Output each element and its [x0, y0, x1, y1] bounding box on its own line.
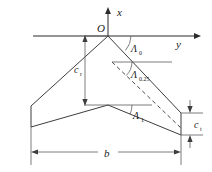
origin-label: O: [97, 22, 105, 34]
tip-chord-arrow-up-icon: [187, 135, 192, 142]
quarter-chord-angle-symbol: Λ: [130, 69, 137, 80]
leading-edge-angle-subscript: 0: [139, 50, 142, 56]
tip-chord-dimension: [181, 100, 203, 148]
quarter-chord-angle-label: Λ 0.25: [130, 69, 150, 82]
wing-outline: [31, 36, 181, 135]
y-axis-arrow-icon: [194, 33, 201, 39]
span-dimension: [31, 127, 181, 165]
span-label: b: [104, 147, 110, 159]
left-leading-edge: [31, 36, 108, 106]
trailing-edge-angle-arc: [130, 105, 132, 114]
root-chord-subscript: r: [80, 71, 82, 77]
root-chord-dimension: [82, 35, 87, 106]
left-trailing-edge: [31, 105, 108, 127]
x-axis-arrow-icon: [105, 7, 111, 14]
trailing-edge-angle-symbol: Λ: [132, 110, 139, 121]
quarter-chord-line-group: [112, 62, 181, 128]
right-leading-edge: [108, 36, 181, 113]
right-trailing-edge: [108, 105, 181, 135]
leading-edge-angle-label: Λ 0: [130, 43, 142, 56]
tip-chord-symbol: c: [194, 119, 199, 130]
wing-planform-svg: x y O Λ 0 Λ 0.25 Λ 1 c r c t b: [0, 0, 212, 172]
trailing-edge-angle-subscript: 1: [141, 117, 144, 123]
tip-chord-label: c t: [194, 119, 202, 132]
root-chord-label: c r: [74, 64, 82, 77]
quarter-chord-angle-subscript: 0.25: [139, 76, 150, 82]
root-chord-symbol: c: [74, 64, 79, 75]
tip-chord-subscript: t: [200, 126, 202, 132]
leading-edge-angle-symbol: Λ: [130, 43, 137, 54]
span-arrow-right-icon: [174, 149, 181, 154]
x-axis-label: x: [116, 6, 122, 18]
tip-chord-arrow-down-icon: [187, 106, 192, 113]
span-arrow-left-icon: [31, 149, 38, 154]
y-axis-label: y: [175, 38, 181, 50]
trailing-edge-angle-label: Λ 1: [132, 110, 144, 123]
wing-planform-figure: x y O Λ 0 Λ 0.25 Λ 1 c r c t b: [0, 0, 212, 172]
quarter-chord-dashed-line: [112, 62, 181, 128]
